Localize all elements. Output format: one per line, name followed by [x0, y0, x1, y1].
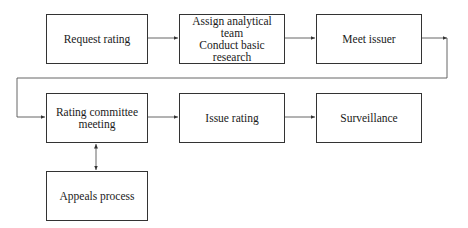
node-label: Appeals process — [59, 190, 134, 202]
node-label-line2: Conduct basic research — [180, 39, 284, 63]
node-label: Meet issuer — [342, 33, 395, 45]
node-label: Request rating — [64, 33, 131, 45]
node-meet-issuer: Meet issuer — [316, 14, 422, 64]
node-issue-rating: Issue rating — [179, 93, 285, 143]
node-request-rating: Request rating — [46, 14, 148, 64]
node-label: Issue rating — [205, 112, 258, 124]
node-label-line1: Assign analytical team — [180, 15, 284, 39]
node-label-line1: Rating committee — [56, 106, 138, 118]
node-assign-analytical-team: Assign analytical team Conduct basic res… — [179, 14, 285, 64]
node-surveillance: Surveillance — [316, 93, 422, 143]
node-label: Surveillance — [340, 112, 397, 124]
node-appeals-process: Appeals process — [46, 171, 148, 221]
node-label-line2: meeting — [78, 118, 115, 130]
node-rating-committee-meeting: Rating committee meeting — [46, 93, 148, 143]
